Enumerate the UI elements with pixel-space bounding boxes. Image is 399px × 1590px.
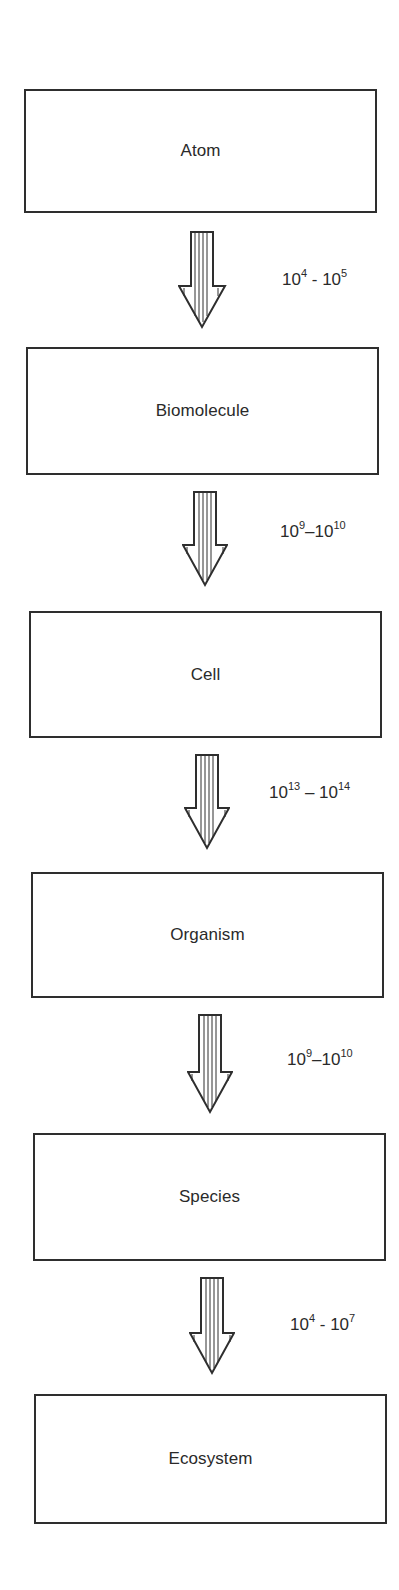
- level-box-ecosystem: Ecosystem: [34, 1394, 387, 1524]
- level-label: Species: [179, 1187, 240, 1207]
- level-box-biomolecule: Biomolecule: [26, 347, 379, 475]
- level-label: Biomolecule: [156, 401, 250, 421]
- level-label: Ecosystem: [168, 1449, 252, 1469]
- transition-ratio-biomolecule-cell: 109–1010: [280, 523, 346, 540]
- down-arrow-icon: [189, 1276, 235, 1376]
- down-arrow-icon: [187, 1013, 233, 1115]
- level-label: Atom: [180, 141, 220, 161]
- level-box-atom: Atom: [24, 89, 377, 213]
- down-arrow-icon: [182, 490, 228, 588]
- transition-ratio-cell-organism: 1013 – 1014: [269, 784, 350, 801]
- level-box-cell: Cell: [29, 611, 382, 738]
- transition-ratio-atom-biomolecule: 104 - 105: [282, 271, 347, 288]
- level-box-species: Species: [33, 1133, 386, 1261]
- transition-ratio-organism-species: 109–1010: [287, 1051, 353, 1068]
- level-label: Cell: [191, 665, 221, 685]
- down-arrow-icon: [184, 753, 230, 851]
- transition-ratio-species-ecosystem: 104 - 107: [290, 1316, 355, 1333]
- level-box-organism: Organism: [31, 872, 384, 998]
- level-label: Organism: [170, 925, 245, 945]
- down-arrow-icon: [178, 230, 228, 330]
